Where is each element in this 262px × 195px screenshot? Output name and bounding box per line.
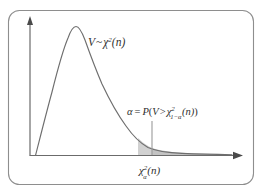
alpha-close-paren: ) bbox=[194, 106, 198, 118]
alpha-sup: 2 bbox=[171, 105, 175, 113]
alpha-equals: = bbox=[135, 106, 141, 117]
figure-frame bbox=[9, 11, 254, 185]
distribution-tilde: ~ bbox=[96, 36, 102, 48]
distribution-label: V~χ2(n) bbox=[88, 36, 125, 49]
critical-arg: (n) bbox=[147, 164, 160, 177]
chi-square-plot: V~χ2(n) α=P(V>χ21−α(n)) χ2α(n) bbox=[0, 0, 262, 195]
distribution-arg: (n) bbox=[112, 36, 126, 49]
alpha-arg: (n) bbox=[182, 106, 195, 118]
alpha-symbol: α bbox=[127, 106, 133, 117]
chi-square-figure: V~χ2(n) α=P(V>χ21−α(n)) χ2α(n) bbox=[0, 0, 262, 195]
alpha-gt: > bbox=[160, 106, 166, 117]
alpha-sub: 1−α bbox=[170, 113, 182, 120]
